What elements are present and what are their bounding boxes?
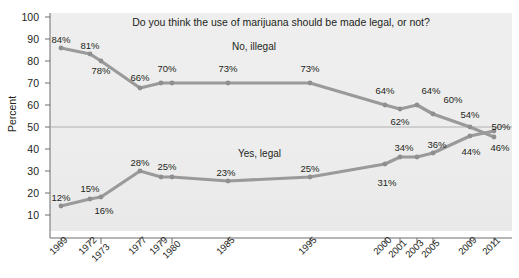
series-label-yes-legal: Yes, legal xyxy=(238,148,281,159)
data-label: 78% xyxy=(82,65,120,76)
data-label: 50% xyxy=(482,121,519,132)
y-tick-marks xyxy=(45,17,50,215)
data-label: 70% xyxy=(148,63,186,74)
data-label: 73% xyxy=(209,63,247,74)
data-label: 73% xyxy=(291,63,329,74)
data-label: 36% xyxy=(418,139,456,150)
series-label-no-illegal: No, illegal xyxy=(232,41,276,52)
data-label: 16% xyxy=(85,205,123,216)
data-label: 31% xyxy=(368,177,406,188)
data-label: 81% xyxy=(71,40,109,51)
data-label: 25% xyxy=(291,163,329,174)
data-label: 25% xyxy=(148,161,186,172)
chart-root: Do you think the use of marijuana should… xyxy=(0,0,519,278)
data-label: 54% xyxy=(451,109,489,120)
data-label: 60% xyxy=(434,94,472,105)
data-label: 62% xyxy=(381,116,419,127)
data-label: 46% xyxy=(481,142,519,153)
data-label: 23% xyxy=(207,167,245,178)
data-label: 15% xyxy=(71,183,109,194)
data-label: 64% xyxy=(366,85,404,96)
